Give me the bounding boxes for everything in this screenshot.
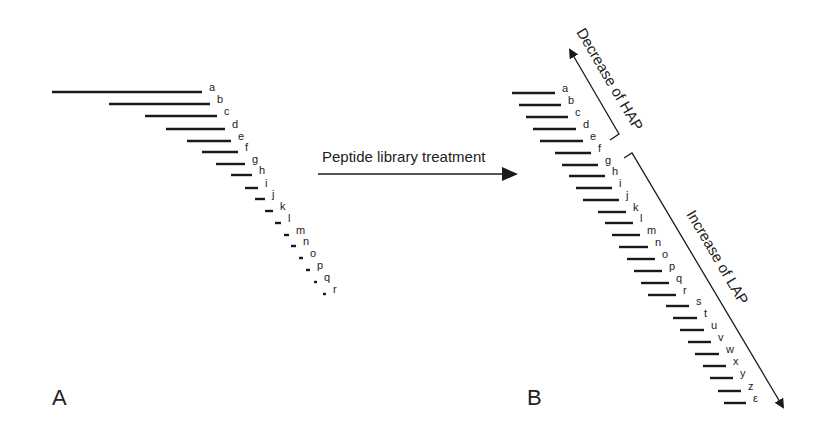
band-c: c (526, 106, 581, 118)
band-q: q (641, 272, 682, 284)
band-s: s (666, 295, 702, 307)
band-d: d (166, 118, 238, 130)
band-w: w (695, 343, 734, 355)
band-label: r (683, 284, 687, 296)
band-k: k (265, 200, 286, 212)
band-u: u (680, 319, 717, 331)
band-c: c (145, 105, 230, 117)
band-v: v (688, 331, 724, 343)
band-z: z (718, 380, 754, 392)
band-label: q (324, 271, 330, 283)
band-a: a (52, 81, 216, 93)
band-a: a (512, 82, 569, 94)
band-label: y (740, 367, 746, 379)
band-b: b (519, 94, 574, 106)
panel-a-band-ladder: abcdefghijklmnopqr (52, 81, 337, 295)
band-j: j (583, 189, 628, 201)
panel-a-label: A (52, 385, 67, 410)
band-label: e (590, 130, 596, 142)
band-ε: ε (724, 392, 758, 404)
band-label: t (704, 307, 707, 319)
band-label: v (718, 331, 724, 343)
band-label: j (271, 188, 274, 200)
band-label: q (676, 272, 682, 284)
band-o: o (627, 248, 668, 260)
band-f: f (202, 141, 249, 153)
band-label: l (640, 212, 642, 224)
band-label: d (583, 118, 589, 130)
band-l: l (275, 212, 290, 224)
band-y: y (710, 367, 746, 379)
band-m: m (284, 224, 305, 236)
lap-annotation: Increase of LAP (624, 153, 783, 407)
treatment-arrow: Peptide library treatment (318, 148, 516, 174)
band-label: ε (753, 392, 758, 404)
band-label: i (619, 177, 621, 189)
band-label: c (575, 106, 581, 118)
band-e: e (187, 130, 244, 142)
band-label: h (259, 164, 265, 176)
band-n: n (291, 235, 309, 247)
band-label: o (662, 248, 668, 260)
band-label: g (252, 153, 258, 165)
band-label: o (310, 247, 316, 259)
figure: abcdefghijklmnopqr abcdefghijklmnopqrstu… (0, 0, 822, 430)
band-x: x (703, 355, 739, 367)
treatment-label: Peptide library treatment (322, 148, 486, 165)
band-q: q (314, 271, 330, 283)
band-h: h (569, 165, 618, 177)
band-r: r (648, 284, 687, 296)
band-d: d (533, 118, 589, 130)
band-f: f (555, 142, 602, 154)
band-m: m (612, 224, 656, 236)
band-label: l (288, 212, 290, 224)
band-label: j (625, 189, 628, 201)
band-label: n (303, 235, 309, 247)
increase-arrow-icon (624, 153, 783, 407)
band-n: n (619, 236, 661, 248)
band-k: k (598, 201, 639, 213)
band-p: p (634, 260, 675, 272)
band-label: f (598, 142, 602, 154)
band-e: e (540, 130, 596, 142)
band-label: w (725, 343, 734, 355)
band-l: l (605, 212, 642, 224)
band-g: g (562, 154, 611, 166)
band-label: p (669, 260, 675, 272)
band-label: g (605, 154, 611, 166)
band-label: z (748, 380, 754, 392)
band-i: i (245, 177, 267, 189)
band-label: s (696, 295, 702, 307)
band-label: c (224, 105, 230, 117)
band-g: g (216, 153, 258, 165)
band-t: t (673, 307, 707, 319)
band-label: x (733, 355, 739, 367)
band-b: b (109, 93, 223, 105)
band-label: a (209, 81, 216, 93)
band-label: b (217, 93, 223, 105)
band-label: k (633, 201, 639, 213)
panel-b-label: B (527, 385, 542, 410)
band-label: n (655, 236, 661, 248)
band-o: o (299, 247, 316, 259)
band-label: i (265, 177, 267, 189)
band-label: a (562, 82, 569, 94)
band-label: u (711, 319, 717, 331)
hap-annotation: Decrease of HAP (570, 25, 647, 140)
band-label: p (317, 259, 323, 271)
band-j: j (255, 188, 274, 200)
band-h: h (231, 164, 265, 176)
band-label: r (333, 283, 337, 295)
band-label: d (232, 118, 238, 130)
band-label: b (568, 94, 574, 106)
band-label: h (612, 165, 618, 177)
band-r: r (323, 283, 337, 295)
band-label: k (280, 200, 286, 212)
band-p: p (306, 259, 323, 271)
band-label: f (245, 141, 249, 153)
band-i: i (576, 177, 621, 189)
band-label: m (647, 224, 656, 236)
band-label: e (238, 130, 244, 142)
